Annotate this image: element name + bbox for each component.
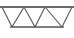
truss-diagram bbox=[0, 0, 74, 38]
figure-background bbox=[0, 0, 74, 38]
truss-svg bbox=[0, 0, 74, 38]
